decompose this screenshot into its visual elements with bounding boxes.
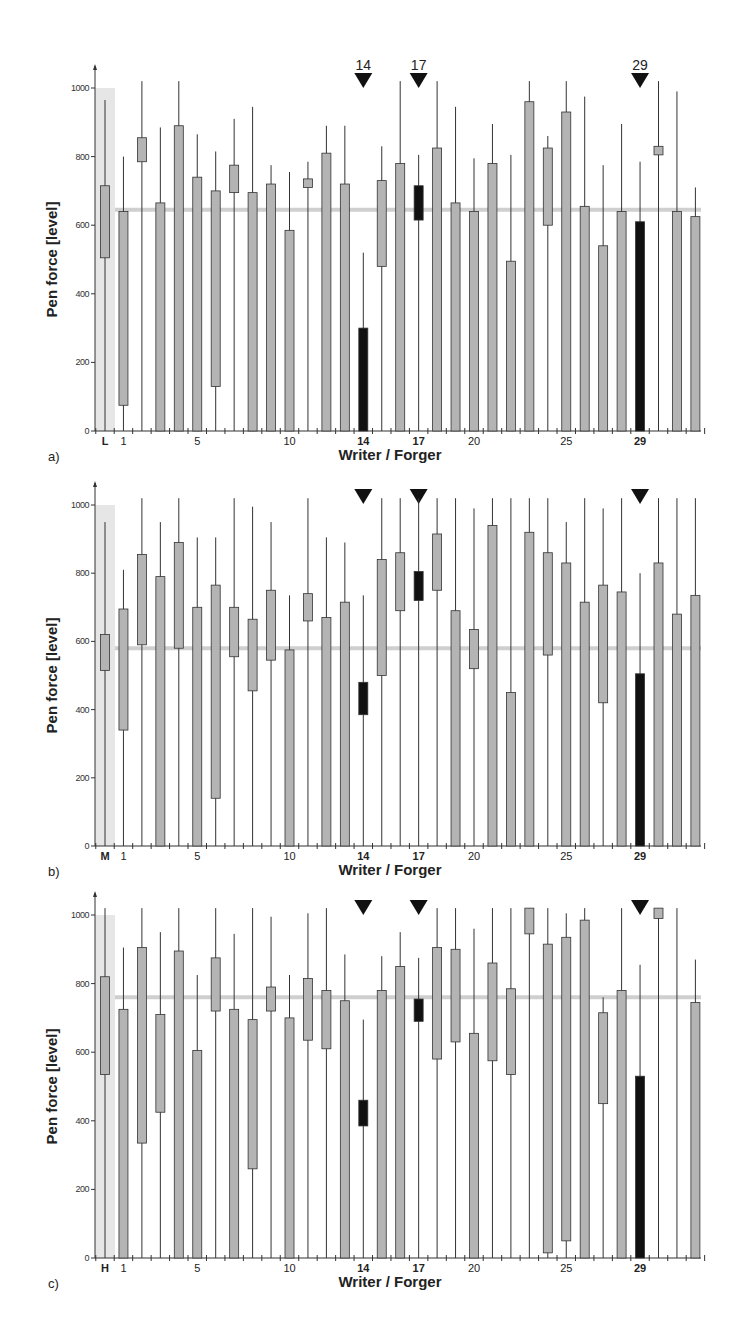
x-tick-label: 25 — [560, 435, 572, 447]
box-27 — [599, 997, 608, 1258]
x-tick-label: 29 — [634, 435, 646, 447]
box-body — [396, 966, 405, 1258]
x-tick-label: 10 — [283, 1262, 295, 1274]
box-body — [691, 595, 700, 846]
y-tick-label: 800 — [75, 152, 89, 162]
box-2 — [137, 908, 146, 1258]
box-10 — [285, 975, 294, 1258]
box-body — [525, 532, 534, 846]
box-15 — [377, 956, 386, 1258]
box-body — [543, 148, 552, 225]
box-2 — [137, 81, 146, 431]
box-25 — [562, 81, 571, 431]
y-tick-label: 800 — [75, 568, 89, 578]
box-8 — [248, 107, 257, 431]
x-axis-label: Writer / Forger — [338, 861, 441, 878]
box-15 — [377, 146, 386, 431]
box-31 — [672, 498, 681, 846]
box-28 — [617, 498, 626, 846]
chart-panel-c: 02004006008001000Pen force [level]H15101… — [43, 891, 705, 1291]
box-13 — [340, 126, 349, 431]
box-body — [174, 543, 183, 649]
box-body — [359, 1100, 368, 1126]
box-body — [599, 246, 608, 431]
box-body — [488, 163, 497, 431]
box-3 — [156, 522, 165, 846]
x-tick-label: 20 — [468, 850, 480, 862]
y-axis-label: Pen force [level] — [43, 202, 60, 318]
marker-label: 14 — [356, 57, 372, 73]
box-1 — [119, 570, 128, 846]
box-8 — [248, 908, 257, 1258]
box-23 — [525, 498, 534, 846]
y-tick-label: 600 — [75, 636, 89, 646]
marker-label: 17 — [411, 57, 427, 73]
box-3 — [156, 127, 165, 431]
box-body — [580, 920, 589, 1258]
marker-triangle-icon — [354, 489, 372, 504]
x-tick-label: 10 — [283, 435, 295, 447]
box-20 — [470, 158, 479, 431]
box-body — [303, 978, 312, 1040]
box-4 — [174, 908, 183, 1258]
box-30 — [654, 908, 663, 1258]
box-body — [470, 211, 479, 431]
box-16 — [396, 932, 405, 1258]
box-18 — [433, 498, 442, 846]
box-body — [433, 148, 442, 431]
box-body — [322, 990, 331, 1048]
y-tick-label: 1000 — [71, 500, 90, 510]
y-tick-label: 600 — [75, 220, 89, 230]
box-27 — [599, 165, 608, 431]
x-tick-label: 20 — [468, 435, 480, 447]
box-body — [636, 674, 645, 846]
y-axis-arrow-icon — [93, 481, 97, 487]
box-body — [119, 1009, 128, 1258]
box-26 — [580, 498, 589, 846]
box-4 — [174, 81, 183, 431]
box-body — [101, 977, 110, 1075]
x-tick-label: M — [100, 850, 109, 862]
y-tick-label: 400 — [75, 1116, 89, 1126]
box-body — [156, 1014, 165, 1112]
box-body — [617, 211, 626, 431]
box-25 — [562, 913, 571, 1258]
box-body — [230, 1009, 239, 1258]
box-21 — [488, 124, 497, 431]
box-body — [636, 1076, 645, 1258]
box-25 — [562, 522, 571, 846]
box-body — [654, 146, 663, 155]
box-body — [691, 217, 700, 431]
box-body — [340, 602, 349, 846]
box-body — [322, 618, 331, 846]
box-32 — [691, 187, 700, 431]
box-28 — [617, 124, 626, 431]
x-tick-label: 25 — [560, 850, 572, 862]
marker-triangle-icon — [354, 900, 372, 915]
box-body — [248, 1020, 257, 1169]
x-tick-label: 5 — [194, 850, 200, 862]
box-body — [488, 963, 497, 1061]
box-12 — [322, 537, 331, 846]
box-body — [119, 211, 128, 405]
box-body — [414, 186, 423, 220]
box-16 — [396, 81, 405, 431]
box-body — [230, 607, 239, 656]
box-body — [211, 958, 220, 1011]
y-axis-arrow-icon — [93, 64, 97, 70]
x-tick-label: 20 — [468, 1262, 480, 1274]
box-13 — [340, 954, 349, 1258]
box-24 — [543, 498, 552, 846]
y-tick-label: 0 — [84, 1253, 89, 1263]
x-tick-label: 1 — [120, 1262, 126, 1274]
box-body — [654, 563, 663, 846]
box-9 — [267, 165, 276, 431]
box-body — [470, 629, 479, 668]
x-tick-label: 29 — [634, 850, 646, 862]
box-18 — [433, 81, 442, 431]
box-body — [101, 186, 110, 258]
box-body — [672, 614, 681, 846]
x-tick-label: 5 — [194, 1262, 200, 1274]
box-body — [340, 184, 349, 431]
box-body — [285, 1018, 294, 1258]
